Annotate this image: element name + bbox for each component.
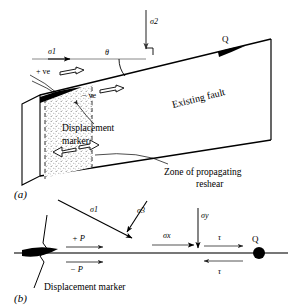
minus-ve-hollow-arrow [100, 85, 124, 93]
sigma1-label-b: σ1 [90, 205, 98, 214]
marker-vertical-upper [43, 215, 47, 243]
panel-a-label: (a) [14, 188, 27, 201]
minus-ve-label: − ve [82, 91, 97, 100]
sigma1-arrow-group-b: σ1 [58, 200, 132, 238]
tau-bottom-label: τ [218, 267, 222, 276]
plus-p-group: + P [66, 233, 103, 247]
marker-vertical-lower [34, 262, 44, 288]
panel-a: σ2 σ1 θ [14, 10, 271, 201]
sigma3-arrow-group-b: σ3 [127, 201, 147, 232]
geology-figure-svg: σ2 σ1 θ [0, 0, 295, 307]
displacement-marker-line1: Displacement [62, 123, 115, 133]
point-q-label: Q [222, 34, 229, 44]
zone-label-line1: Zone of propagating [164, 167, 242, 177]
point-q-label-b: Q [252, 234, 259, 244]
displacement-marker-symbol-b [22, 215, 58, 288]
right-angle-marker [146, 48, 153, 55]
block-left-face [22, 95, 40, 185]
plus-p-label: + P [72, 233, 85, 243]
figure-container: σ2 σ1 θ [0, 0, 295, 307]
sigma-y-label: σy [201, 211, 209, 220]
tau-bottom-group: τ [204, 261, 243, 276]
zone-label-line2: reshear [196, 179, 224, 189]
sigma2-arrow-group: σ2 [146, 10, 158, 49]
sigma1-arrow-group: σ1 [32, 47, 146, 59]
plus-ve-arrow-group: + ve [36, 67, 84, 76]
sigma-y-arrow-group: σy [198, 208, 209, 248]
leader-line-plus-ve [30, 75, 57, 93]
panel-b-label: (b) [14, 292, 27, 305]
displacement-marker-label-b: Displacement marker [44, 282, 126, 292]
panel-b: σ1 σ3 σy σx τ [14, 200, 288, 305]
sigma-x-label: σx [163, 231, 171, 240]
existing-fault-label: Existing fault [171, 86, 226, 110]
plus-ve-label: + ve [36, 67, 51, 76]
point-q-dot-b [253, 247, 265, 259]
tau-top-label: τ [218, 233, 222, 242]
tau-top-group: τ [204, 233, 243, 246]
minus-p-group: − P [66, 262, 103, 274]
sigma3-label-b: σ3 [137, 206, 145, 215]
sigma1-label: σ1 [48, 47, 56, 56]
leader-line-zone [95, 154, 168, 164]
minus-p-label: − P [70, 264, 83, 274]
zone-label-group: Zone of propagating reshear [95, 154, 242, 189]
theta-arc [119, 59, 125, 76]
displacement-marker-lens-b [22, 247, 58, 256]
plus-ve-hollow-arrow [60, 67, 84, 75]
theta-label: θ [105, 48, 109, 57]
sigma-x-arrow-group: σx [152, 231, 194, 245]
sigma2-label: σ2 [150, 17, 158, 26]
